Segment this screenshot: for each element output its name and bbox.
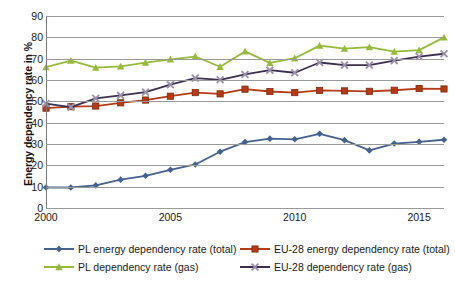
data-point-marker: [441, 86, 447, 92]
data-point-marker: [217, 148, 224, 155]
gridline: [46, 101, 444, 102]
y-tick-label: 50: [31, 95, 43, 107]
x-tick-label: 2000: [34, 211, 57, 223]
data-point-marker: [441, 136, 448, 143]
data-point-marker: [316, 130, 323, 137]
data-point-marker: [192, 89, 198, 95]
data-point-marker: [291, 136, 298, 143]
data-point-marker: [252, 246, 258, 252]
data-point-marker: [341, 137, 348, 144]
data-point-marker: [241, 48, 248, 55]
legend-swatch: [240, 243, 270, 255]
data-point-marker: [92, 182, 99, 189]
y-tick-label: 70: [31, 53, 43, 65]
legend-label: PL dependency rate (gas): [78, 261, 198, 273]
x-tick-label: 2015: [407, 211, 430, 223]
y-axis-label: Energy dependency rate in %: [22, 24, 34, 204]
legend-item[interactable]: EU-28 energy dependency rate (total): [240, 243, 444, 255]
data-point-marker: [267, 88, 273, 94]
y-tick-label: 30: [31, 138, 43, 150]
data-point-marker: [366, 147, 373, 154]
y-tick-label: 10: [31, 181, 43, 193]
gridline: [46, 165, 444, 166]
data-point-marker: [142, 172, 149, 179]
legend-swatch: [240, 261, 270, 273]
data-point-marker: [55, 263, 62, 270]
gridline: [46, 59, 444, 60]
legend-label: EU-28 dependency rate (gas): [274, 261, 412, 273]
data-point-marker: [56, 246, 63, 253]
legend-item[interactable]: PL energy dependency rate (total): [44, 243, 240, 255]
gridline: [46, 123, 444, 124]
y-tick-label: 40: [31, 117, 43, 129]
x-tick-label: 2005: [159, 211, 182, 223]
data-point-marker: [117, 176, 124, 183]
data-point-marker: [267, 135, 274, 142]
y-tick-label: 20: [31, 159, 43, 171]
y-tick-label: 80: [31, 31, 43, 43]
data-point-marker: [317, 87, 323, 93]
x-tick-label: 2010: [283, 211, 306, 223]
data-point-marker: [167, 93, 173, 99]
gridline: [46, 80, 444, 81]
legend-swatch: [44, 243, 74, 255]
legend-swatch: [44, 261, 74, 273]
data-point-marker: [341, 88, 347, 94]
data-point-marker: [93, 103, 99, 109]
legend-label: PL energy dependency rate (total): [78, 243, 236, 255]
gridline: [46, 208, 444, 209]
data-point-marker: [292, 89, 298, 95]
data-point-marker: [167, 167, 174, 174]
data-point-marker: [217, 91, 223, 97]
gridline: [46, 144, 444, 145]
y-axis-line: [46, 16, 47, 208]
legend-item[interactable]: PL dependency rate (gas): [44, 261, 240, 273]
data-point-marker: [252, 264, 259, 271]
data-point-marker: [366, 88, 372, 94]
y-tick-label: 90: [31, 10, 43, 22]
data-point-marker: [391, 87, 397, 93]
y-tick-label: 60: [31, 74, 43, 86]
data-point-marker: [242, 86, 248, 92]
legend-item[interactable]: EU-28 dependency rate (gas): [240, 261, 444, 273]
legend-label: EU-28 energy dependency rate (total): [274, 243, 450, 255]
gridline: [46, 16, 444, 17]
series-lines: [46, 16, 444, 208]
gridline: [46, 37, 444, 38]
gridline: [46, 187, 444, 188]
chart-legend: PL energy dependency rate (total)EU-28 e…: [44, 240, 444, 276]
chart-figure: Energy dependency rate in % 010203040506…: [0, 0, 455, 291]
plot-area: 0102030405060708090 2000200520102015: [46, 16, 444, 208]
data-point-marker: [416, 85, 422, 91]
